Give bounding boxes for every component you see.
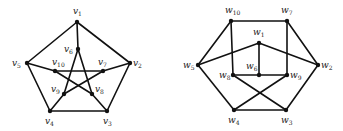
edge-v1-v6 <box>77 22 78 49</box>
graph-diagram: v1v2v3v4v5v6v7v8v9v10 w1w2w3w4w5w6w7w8w9… <box>0 0 343 131</box>
edge-w1-w2 <box>259 43 318 65</box>
vertex-v9 <box>62 92 66 96</box>
edge-v4-v9 <box>50 94 64 111</box>
vertex-v1 <box>75 20 79 24</box>
vertex-v10 <box>53 69 57 73</box>
vertex-label-v1: v1 <box>73 6 82 17</box>
vertex-label-w8: w8 <box>219 70 231 81</box>
edge-w5-w4 <box>198 65 234 110</box>
vertex-label-w2: w2 <box>321 60 333 71</box>
vertex-w1 <box>257 41 261 45</box>
vertex-v6 <box>76 47 80 51</box>
edge-v5-v10 <box>27 63 55 71</box>
vertex-w6 <box>257 73 261 77</box>
petersen-graph-w: w1w2w3w4w5w6w7w8w9w10 <box>183 5 333 126</box>
edge-v4-v5 <box>27 63 50 111</box>
vertex-label-v7: v7 <box>98 57 107 68</box>
vertex-label-v5: v5 <box>12 58 21 69</box>
edge-v2-v3 <box>107 63 130 111</box>
vertex-label-v10: v10 <box>52 57 65 68</box>
vertex-label-w4: w4 <box>228 115 240 126</box>
edge-v1-v2 <box>77 22 130 63</box>
vertex-label-v2: v2 <box>133 58 142 69</box>
vertex-label-v3: v3 <box>103 116 112 127</box>
vertex-label-w1: w1 <box>253 27 265 38</box>
vertex-w2 <box>316 63 320 67</box>
vertex-w4 <box>232 108 236 112</box>
vertex-label-w6: w6 <box>246 61 258 72</box>
edge-w10-w8 <box>231 21 233 75</box>
vertex-v7 <box>101 69 105 73</box>
vertex-label-w5: w5 <box>183 60 195 71</box>
edge-v3-v8 <box>92 94 107 111</box>
petersen-graph-v: v1v2v3v4v5v6v7v8v9v10 <box>12 6 142 127</box>
vertex-label-w10: w10 <box>225 5 241 16</box>
vertex-label-w9: w9 <box>290 70 302 81</box>
vertex-label-v4: v4 <box>45 116 54 127</box>
vertex-w3 <box>284 108 288 112</box>
vertex-label-w3: w3 <box>281 115 293 126</box>
vertex-v4 <box>48 109 52 113</box>
vertex-w7 <box>285 19 289 23</box>
vertex-w8 <box>231 73 235 77</box>
vertex-label-v6: v6 <box>64 44 73 55</box>
vertex-w9 <box>285 73 289 77</box>
vertex-label-v8: v8 <box>95 84 104 95</box>
vertex-label-v9: v9 <box>51 84 60 95</box>
vertex-label-w7: w7 <box>281 5 293 16</box>
vertex-v5 <box>25 61 29 65</box>
vertex-v8 <box>90 92 94 96</box>
vertex-v2 <box>128 61 132 65</box>
vertex-w10 <box>229 19 233 23</box>
vertex-w5 <box>196 63 200 67</box>
vertex-v3 <box>105 109 109 113</box>
